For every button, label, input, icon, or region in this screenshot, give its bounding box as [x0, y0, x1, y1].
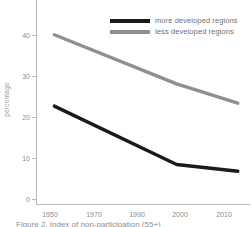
legend-swatch-more-developed-icon: [110, 19, 150, 23]
legend-label-more-developed: more developed regions: [155, 17, 238, 25]
chart-legend: more developed regions less developed re…: [110, 17, 238, 36]
chart-figure: 50 40 30 20 10 0 percentage 1950 1970 19…: [0, 0, 252, 227]
legend-item-less-developed: less developed regions: [110, 28, 238, 36]
legend-label-less-developed: less developed regions: [155, 28, 234, 36]
legend-item-more-developed: more developed regions: [110, 17, 238, 25]
legend-swatch-less-developed-icon: [110, 30, 150, 34]
figure-caption: Figure 2. Index of non-participation (55…: [16, 220, 252, 227]
line-less-developed-regions: [54, 35, 237, 103]
line-more-developed-regions: [54, 106, 237, 171]
